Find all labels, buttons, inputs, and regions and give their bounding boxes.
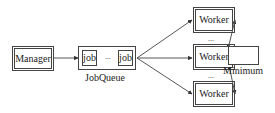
worker-ellipsis-1: ... (208, 33, 214, 45)
manager-node: Manager (14, 48, 52, 69)
job-item-label: job (119, 52, 132, 64)
manager-label: Manager (15, 53, 51, 65)
worker-label: Worker (199, 14, 229, 26)
job-item-2: job (118, 50, 133, 66)
job-ellipsis: ... (105, 51, 111, 63)
minimum-label: Minimum (223, 65, 263, 77)
minimum-node (228, 46, 259, 65)
job-item-1: job (82, 50, 97, 66)
job-item-label: job (83, 52, 96, 64)
arrow-jobqueue-to-worker-3 (137, 58, 192, 94)
worker-label: Worker (199, 88, 229, 100)
worker-node-1: Worker (195, 9, 233, 31)
jobqueue-node: job ... job (78, 46, 136, 70)
jobqueue-label: JobQueue (85, 72, 125, 84)
arrow-jobqueue-to-worker-1 (137, 20, 192, 58)
worker-label: Worker (199, 51, 229, 63)
worker-node-3: Worker (195, 83, 233, 105)
worker-ellipsis-2: ... (208, 70, 214, 82)
